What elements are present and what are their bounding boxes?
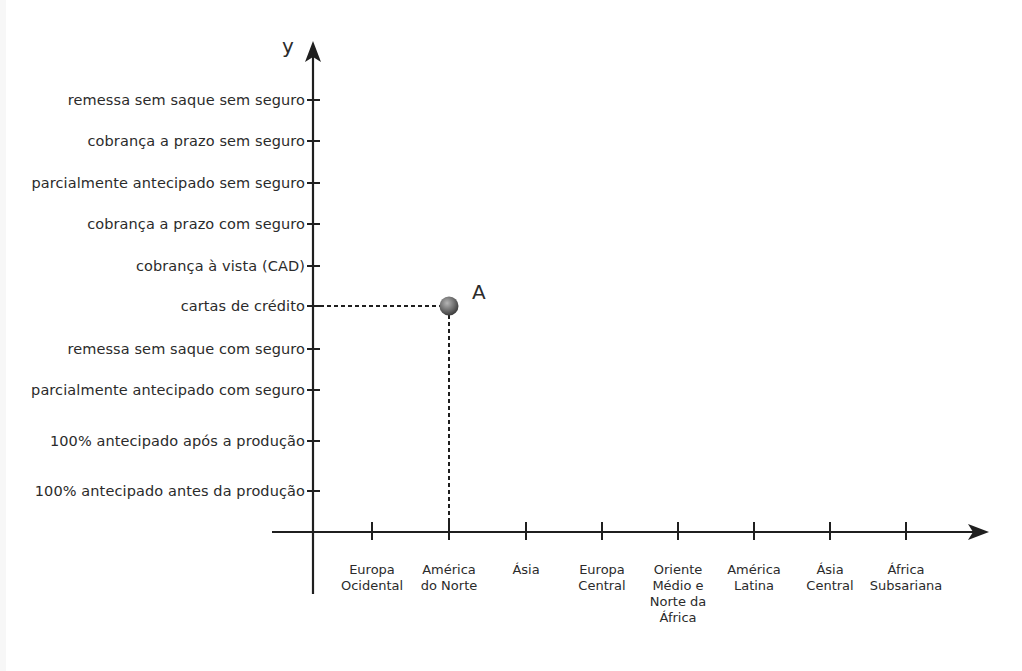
x-tick-label-line: África: [633, 610, 723, 626]
y-tick-label: cobrança a prazo sem seguro: [88, 132, 305, 150]
y-tick-label: 100% antecipado antes da produção: [35, 482, 305, 500]
x-tick-label-line: do Norte: [404, 578, 494, 594]
y-tick-label: remessa sem saque sem seguro: [68, 91, 305, 109]
y-tick-label: cartas de crédito: [181, 297, 305, 315]
point-label-a: A: [472, 282, 486, 302]
x-tick-label-line: Subsariana: [861, 578, 951, 594]
y-tick-label: 100% antecipado após a produção: [50, 432, 305, 450]
y-tick-label: cobrança à vista (CAD): [136, 257, 305, 275]
x-tick-label-line: Norte da: [633, 594, 723, 610]
x-tick-label: África Subsariana: [861, 562, 951, 594]
x-tick-label-line: África: [861, 562, 951, 578]
y-tick-label: cobrança a prazo com seguro: [87, 215, 305, 233]
y-tick-label: remessa sem saque com seguro: [67, 340, 305, 358]
y-tick-label: parcialmente antecipado sem seguro: [31, 174, 305, 192]
y-tick-label: parcialmente antecipado com seguro: [31, 381, 305, 399]
data-point-a: [440, 297, 459, 316]
y-axis-title: y: [282, 36, 294, 56]
